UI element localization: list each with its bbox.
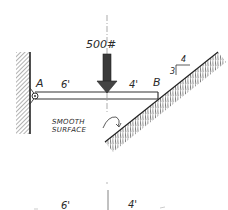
beam-left-length: 6' [61, 79, 70, 90]
pin-support-a [30, 88, 38, 104]
dimension-right-label: 4' [128, 199, 137, 210]
inclined-surface [105, 52, 226, 152]
beam [35, 92, 158, 99]
note-line-1: SMOOTH [52, 118, 85, 126]
support-a-label: A [35, 77, 44, 90]
slope-rise-label: 3 [170, 67, 175, 76]
slope-run-label: 4 [181, 55, 186, 64]
beam-right-length: 4' [129, 79, 138, 90]
statics-diagram: 500# A B 6' 4' 3 4 SMOOTH SURFACE 6' 4' [0, 0, 228, 210]
slope-indicator [176, 65, 190, 75]
dimension-line [34, 182, 165, 210]
dimension-left-label: 6' [61, 200, 70, 210]
note-leader-arrow [103, 117, 119, 128]
note-line-2: SURFACE [52, 126, 87, 134]
load-label: 500# [86, 38, 116, 51]
diagram-canvas: 500# A B 6' 4' 3 4 SMOOTH SURFACE 6' 4' [0, 0, 228, 210]
wall-support [16, 52, 30, 134]
load-arrow-icon [97, 54, 117, 93]
support-b-label: B [153, 76, 161, 89]
